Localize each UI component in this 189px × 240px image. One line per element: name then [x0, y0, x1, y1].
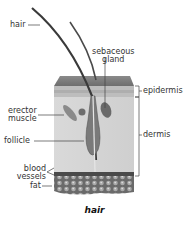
- skin-surface: [54, 76, 134, 86]
- label-dermis: dermis: [143, 131, 170, 139]
- label-erector-line2: muscle: [8, 115, 37, 123]
- fat-layer: [54, 176, 134, 195]
- label-blood-line2: vessels: [14, 173, 46, 181]
- label-follicle: follicle: [4, 137, 30, 145]
- label-fat: fat: [30, 182, 41, 190]
- label-sebaceous-gland: sebaceous gland: [92, 48, 135, 64]
- label-erector-muscle: erector muscle: [8, 107, 37, 123]
- label-epidermis: epidermis: [143, 87, 183, 95]
- label-blood-vessels: blood vessels: [14, 165, 46, 181]
- label-hair: hair: [10, 21, 25, 29]
- blood-vessel-band: [54, 172, 134, 176]
- label-sebaceous-line2: gland: [92, 56, 135, 64]
- diagram-caption: hair: [0, 205, 189, 215]
